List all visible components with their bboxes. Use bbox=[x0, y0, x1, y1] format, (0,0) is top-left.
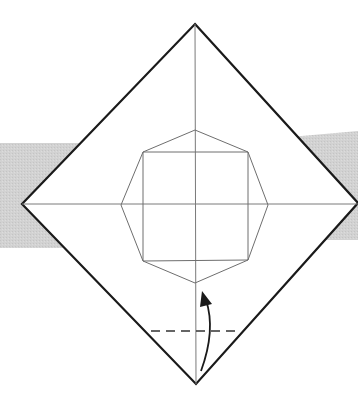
diagram-canvas bbox=[0, 0, 358, 405]
origami-diagram bbox=[0, 0, 358, 405]
